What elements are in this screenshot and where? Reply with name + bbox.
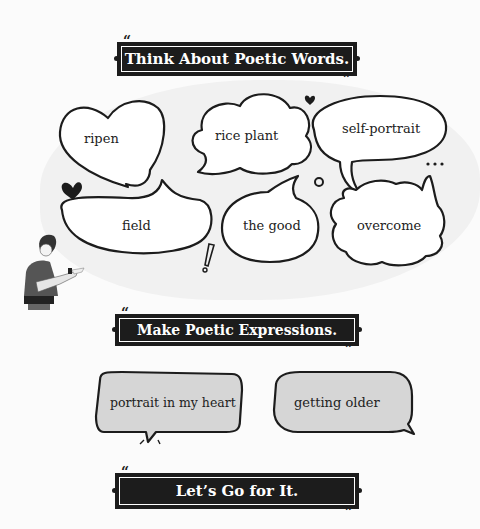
bracket-dot xyxy=(357,488,362,493)
expression-bubble-getting-older: getting older xyxy=(294,395,380,410)
close-quote-icon: ” xyxy=(345,505,353,519)
expression-bubble-portrait-in-my-heart: portrait in my heart xyxy=(110,395,236,410)
section-title: Let’s Go for It. xyxy=(117,475,357,507)
bracket-dot xyxy=(112,488,117,493)
section-banner-lets-go: “ Let’s Go for It. ” xyxy=(115,473,359,509)
open-quote-icon: “ xyxy=(121,465,129,479)
